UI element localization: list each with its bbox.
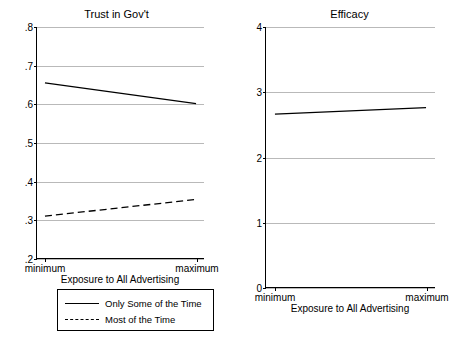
plot-area-trust: .8 .7 .6 .5 .4 .3 .2 minimum maximum [36,27,204,259]
legend-key-solid-line [65,298,99,308]
series-lines-efficacy [266,27,435,287]
x-tick-label: minimum [25,263,66,274]
y-tick-mark [34,259,37,260]
plot-area-efficacy: 4 3 2 1 0 minimum maximum [265,27,435,288]
gridline [266,288,435,289]
legend-key-dashed-line [65,314,99,324]
y-tick-label: 3 [256,87,262,98]
y-tick-label: .3 [25,215,33,226]
legend-label: Most of the Time [105,314,175,325]
x-axis-title-trust: Exposure to All Advertising [36,274,204,285]
y-tick-label: 2 [256,152,262,163]
x-tick-mark [275,287,276,291]
x-tick-mark [45,258,46,262]
x-tick-label: minimum [255,292,296,303]
x-tick-mark [197,258,198,262]
y-tick-mark [263,288,266,289]
y-tick-label: 4 [256,22,262,33]
x-tick-label: maximum [405,292,448,303]
panel-title-efficacy: Efficacy [233,8,466,20]
series-line-most-of-the-time [45,199,196,216]
x-axis-title-efficacy: Exposure to All Advertising [265,303,435,314]
x-tick-label: maximum [175,263,218,274]
series-line-only-some-of-the-time [45,83,196,104]
series-lines-trust [37,27,204,258]
panel-title-trust: Trust in Gov't [0,8,233,20]
y-tick-label: .7 [25,60,33,71]
y-tick-label: .6 [25,99,33,110]
gridline [37,259,204,260]
y-tick-label: .5 [25,138,33,149]
figure: Trust in Gov't .8 .7 .6 .5 .4 .3 .2 [0,0,466,344]
chart-panel-efficacy: Efficacy 4 3 2 1 0 minimum maximum [233,0,466,344]
legend-item-only-some-of-the-time: Only Some of the Time [65,296,202,310]
y-tick-label: .4 [25,176,33,187]
legend-item-most-of-the-time: Most of the Time [65,312,175,326]
legend-label: Only Some of the Time [105,298,202,309]
series-line-efficacy [275,108,426,114]
legend: Only Some of the Time Most of the Time [57,289,214,331]
x-tick-mark [427,287,428,291]
y-tick-label: 1 [256,217,262,228]
y-tick-label: .8 [25,22,33,33]
